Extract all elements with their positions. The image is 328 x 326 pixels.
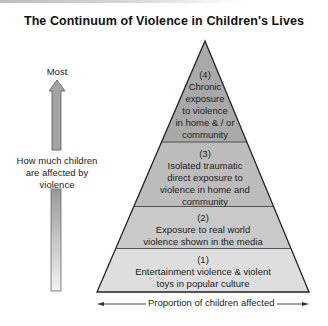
level-line: Chronic <box>165 81 245 93</box>
y-axis-label-line: How much children <box>0 155 114 167</box>
level-line: violence shown in the media <box>133 236 273 248</box>
level-number: (1) <box>113 254 293 266</box>
level-number: (4) <box>165 69 245 81</box>
y-axis-label: How much children are affected by violen… <box>0 155 114 191</box>
level-4-text: (4) Chronic exposure to violence in home… <box>165 69 245 141</box>
level-line: violence in home and <box>150 184 260 196</box>
y-axis-label-line: violence <box>0 179 114 191</box>
level-line: toys in popular culture <box>113 278 293 290</box>
level-line: in home & / or <box>165 117 245 129</box>
level-number: (3) <box>150 148 260 160</box>
level-number: (2) <box>133 212 273 224</box>
level-line: Isolated traumatic <box>150 160 260 172</box>
y-axis-label-line: are affected by <box>0 167 114 179</box>
level-line: Entertainment violence & violent <box>113 266 293 278</box>
level-line: community <box>150 196 260 208</box>
y-axis-top-label: Most <box>37 66 77 78</box>
x-axis-label: Proportion of children affected <box>146 297 277 308</box>
level-line: exposure <box>165 93 245 105</box>
level-line: to violence <box>165 105 245 117</box>
level-line: Exposure to real world <box>133 224 273 236</box>
level-3-text: (3) Isolated traumatic direct exposure t… <box>150 148 260 208</box>
level-line: direct exposure to <box>150 172 260 184</box>
level-2-text: (2) Exposure to real world violence show… <box>133 212 273 248</box>
level-1-text: (1) Entertainment violence & violent toy… <box>113 254 293 290</box>
level-line: community <box>165 129 245 141</box>
